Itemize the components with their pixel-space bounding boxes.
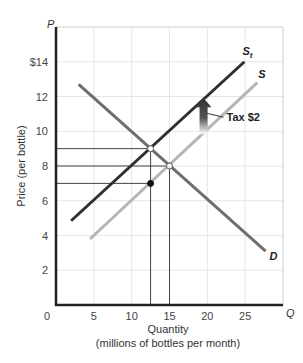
y-tick-label: 4 (42, 230, 48, 242)
curves: DSSt (71, 45, 277, 262)
y-tick-label: 10 (36, 125, 48, 137)
y-tick-label: 12 (36, 91, 48, 103)
curve-label-s: S (258, 68, 266, 80)
curve-label-d: D (270, 250, 278, 262)
buyer-price-point (148, 146, 154, 152)
seller-price-point (148, 180, 154, 186)
y-tick-label: 6 (42, 195, 48, 207)
x-axis-label: Quantity (148, 323, 189, 335)
x-axis-sublabel: (millions of bottles per month) (96, 337, 240, 349)
tax-label: Tax $2 (227, 111, 260, 123)
y-axis-label: Price (per bottle) (15, 125, 27, 206)
x-tick-label: 5 (91, 310, 97, 322)
tax-supply-demand-chart: DSSt 051015202524681012$14 Tax $2 P Q Qu… (0, 0, 303, 363)
x-tick-label: 10 (126, 310, 138, 322)
guide-lines (56, 149, 170, 305)
curve-s1 (71, 62, 244, 221)
curve-s (90, 83, 257, 239)
y-tick-label: 8 (42, 160, 48, 172)
tax-annotation: Tax $2 (196, 98, 260, 134)
y-axis-symbol: P (47, 18, 55, 30)
x-tick-label: 25 (239, 310, 251, 322)
tick-labels: 051015202524681012$14 (30, 56, 252, 322)
x-tick-label: 0 (44, 310, 50, 322)
original-equilibrium-point (167, 163, 173, 169)
curve-label-s1: St (242, 45, 252, 60)
x-tick-label: 15 (163, 310, 175, 322)
x-tick-label: 20 (201, 310, 213, 322)
x-axis-symbol: Q (286, 307, 295, 319)
y-tick-label: $14 (30, 56, 48, 68)
y-tick-label: 2 (42, 264, 48, 276)
